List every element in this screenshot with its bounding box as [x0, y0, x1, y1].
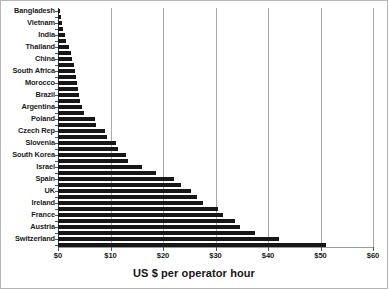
bar-row	[58, 111, 373, 115]
bar	[58, 45, 69, 49]
x-axis-title: US $ per operator hour	[1, 267, 387, 279]
bar-row	[58, 153, 373, 157]
category-tick	[55, 221, 58, 222]
category-tick	[55, 245, 58, 246]
bar	[58, 213, 223, 217]
category-tick	[55, 209, 58, 210]
category-tick	[55, 23, 58, 24]
category-tick	[55, 143, 58, 144]
bar-row	[58, 123, 373, 127]
bar	[58, 207, 218, 211]
plot-area	[58, 8, 373, 248]
bar-row	[58, 93, 373, 97]
category-tick	[55, 107, 58, 108]
bar	[58, 21, 62, 25]
category-label: China	[35, 55, 55, 63]
category-tick	[55, 227, 58, 228]
category-tick	[55, 137, 58, 138]
bar-row	[58, 195, 373, 199]
bar-row	[58, 33, 373, 37]
bar	[58, 231, 255, 235]
bar-row	[58, 219, 373, 223]
bar	[58, 123, 96, 127]
bar-row	[58, 165, 373, 169]
category-label: Bangladesh	[14, 7, 55, 15]
bar-row	[58, 189, 373, 193]
bar-row	[58, 27, 373, 31]
bar	[58, 177, 174, 181]
category-tick	[55, 53, 58, 54]
bar	[58, 57, 72, 61]
x-axis-label: $50	[314, 251, 327, 260]
bar	[58, 111, 84, 115]
bar-row	[58, 207, 373, 211]
x-axis-label: $40	[262, 251, 275, 260]
category-tick	[55, 239, 58, 240]
bar	[58, 183, 181, 187]
category-label: Poland	[31, 115, 55, 123]
value-axis-labels: $0$10$20$30$40$50$60	[58, 251, 373, 265]
category-label: South Africa	[13, 67, 55, 75]
category-label: Spain	[35, 175, 55, 183]
category-label: Thailand	[25, 43, 55, 51]
category-tick	[55, 65, 58, 66]
bar-row	[58, 213, 373, 217]
category-tick	[55, 125, 58, 126]
bar	[58, 201, 203, 205]
bar-row	[58, 237, 373, 241]
category-tick	[55, 11, 58, 12]
category-tick	[55, 83, 58, 84]
category-tick	[55, 17, 58, 18]
category-tick	[55, 179, 58, 180]
bar-row	[58, 231, 373, 235]
chart-container: BangladeshVietnamIndiaThailandChinaSouth…	[0, 0, 388, 289]
category-label: India	[38, 31, 55, 39]
bar	[58, 165, 142, 169]
bar	[58, 93, 79, 97]
bar-row	[58, 177, 373, 181]
category-label: UK	[45, 187, 55, 195]
category-tick	[55, 203, 58, 204]
bar	[58, 63, 74, 67]
bar-row	[58, 129, 373, 133]
category-tick	[55, 197, 58, 198]
bar-row	[58, 87, 373, 91]
category-tick	[55, 41, 58, 42]
category-tick	[55, 131, 58, 132]
bar	[58, 147, 118, 151]
category-tick	[55, 173, 58, 174]
bar	[58, 81, 77, 85]
category-axis-labels: BangladeshVietnamIndiaThailandChinaSouth…	[1, 8, 55, 248]
category-tick	[55, 29, 58, 30]
category-label: Argentina	[21, 103, 55, 111]
bar	[58, 189, 191, 193]
x-axis-label: $30	[209, 251, 222, 260]
bar-row	[58, 45, 373, 49]
category-label: Austria	[30, 223, 55, 231]
bar	[58, 225, 240, 229]
category-label: South Korea	[12, 151, 55, 159]
bar	[58, 87, 78, 91]
category-tick	[55, 167, 58, 168]
category-tick	[55, 71, 58, 72]
bar-row	[58, 171, 373, 175]
x-axis-label: $0	[54, 251, 62, 260]
bar	[58, 69, 75, 73]
bar	[58, 51, 71, 55]
bar-row	[58, 135, 373, 139]
category-tick	[55, 101, 58, 102]
category-tick	[55, 89, 58, 90]
bar-row	[58, 57, 373, 61]
bar-series	[58, 8, 373, 248]
x-axis-label: $10	[104, 251, 117, 260]
gridline-60	[373, 8, 374, 248]
bar	[58, 171, 156, 175]
bar	[58, 99, 80, 103]
category-label: Slovenia	[25, 139, 55, 147]
category-label: Brazil	[35, 91, 55, 99]
category-tick	[55, 233, 58, 234]
bar-row	[58, 21, 373, 25]
bar	[58, 15, 61, 19]
category-tick	[55, 35, 58, 36]
bar	[58, 219, 235, 223]
